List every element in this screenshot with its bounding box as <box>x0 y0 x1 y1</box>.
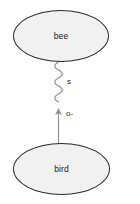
wavy-edge-label: s <box>67 78 71 86</box>
diagram-canvas: bee bird s o- <box>0 0 140 204</box>
node-bee-label: bee <box>54 32 68 41</box>
node-bird-label: bird <box>54 165 69 174</box>
node-bee[interactable]: bee <box>13 10 109 62</box>
arrow-edge-label: o- <box>66 110 73 118</box>
node-bird[interactable]: bird <box>13 143 110 195</box>
wavy-edge-path <box>55 62 63 102</box>
